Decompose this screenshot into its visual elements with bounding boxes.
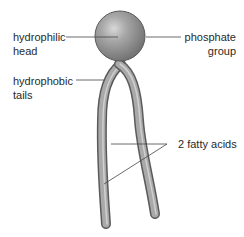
fatty-acids-label: 2 fatty acids: [178, 137, 237, 151]
hydrophilic-head-label: hydrophilic head: [13, 30, 66, 58]
label-line: phosphate: [184, 30, 236, 44]
label-line: hydrophilic: [13, 30, 66, 44]
phosphate-head: [95, 11, 145, 61]
label-line: head: [13, 44, 66, 58]
phosphate-group-label: phosphate group: [184, 30, 236, 58]
hydrophobic-tails-label: hydrophobic tails: [13, 74, 73, 102]
label-line: tails: [13, 88, 73, 102]
label-line: group: [184, 44, 236, 58]
label-line: hydrophobic: [13, 74, 73, 88]
